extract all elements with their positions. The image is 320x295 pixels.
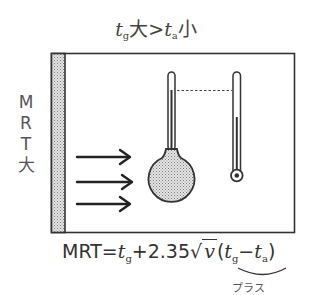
formula-plus: + [132, 240, 148, 262]
dry-bulb-thermometer [231, 72, 243, 181]
formula-lhs: MRT [62, 240, 102, 262]
formula-velocity: v [202, 239, 217, 262]
brace-note-plus: プラス [232, 279, 265, 295]
underbrace [238, 268, 286, 275]
formula-minus: − [238, 240, 254, 262]
heated-wall [52, 54, 66, 233]
formula-coefficient: 2.35 [148, 240, 190, 262]
formula-close-paren: ) [268, 240, 275, 262]
formula-ta: t [254, 240, 262, 262]
formula-tg2: t [224, 240, 232, 262]
mrt-formula: MRT=tg+2.35√v(tg−ta) [62, 240, 275, 264]
formula-equals: = [102, 240, 118, 262]
sqrt-icon: √ [190, 240, 202, 262]
